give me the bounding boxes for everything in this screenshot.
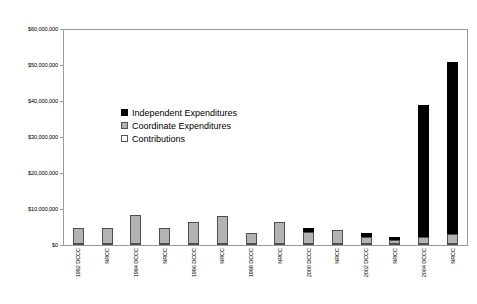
bar-slot	[237, 30, 266, 245]
x-axis-tick: NRCC	[438, 248, 467, 304]
x-axis-tick-label: 1996 DCCC	[191, 248, 197, 277]
segment-contributions	[274, 243, 285, 245]
segment-independent-expenditures	[418, 105, 429, 237]
bar-slot	[409, 30, 438, 245]
chart-legend: Independent Expenditures Coordinate Expe…	[118, 104, 240, 147]
y-axis-tick-label: $40,000,000	[0, 98, 58, 104]
x-axis-tick-label: 2004 DCCC	[421, 248, 427, 277]
y-axis-tick-label: $10,000,000	[0, 206, 58, 212]
bar-slot	[323, 30, 352, 245]
segment-contributions	[73, 243, 84, 245]
segment-contributions	[159, 243, 170, 245]
y-axis-tick-label: $0	[0, 242, 58, 248]
x-axis-tick-label: 1992 DCCC	[75, 248, 81, 277]
stacked-bar[interactable]	[217, 216, 228, 245]
bar-slot	[265, 30, 294, 245]
segment-independent-expenditures	[447, 62, 458, 234]
stacked-bar[interactable]	[274, 222, 285, 245]
segment-coordinate-expenditures	[332, 230, 343, 243]
legend-item-contributions: Contributions	[121, 132, 237, 145]
segment-coordinate-expenditures	[130, 215, 141, 243]
x-axis-tick: 1994 DCCC	[122, 248, 151, 304]
y-axis-tick-label: $60,000,000	[0, 26, 58, 32]
x-axis-tick-label: 1998 DCCC	[248, 248, 254, 277]
segment-contributions	[332, 243, 343, 245]
x-axis-tick: NRCC	[150, 248, 179, 304]
chart-container: $60,000,000 $50,000,000 $40,000,000 $30,…	[0, 0, 477, 304]
x-axis-tick: NRCC	[93, 248, 122, 304]
segment-contributions	[361, 243, 372, 245]
segment-coordinate-expenditures	[246, 233, 257, 243]
segment-contributions	[188, 243, 199, 245]
x-axis-tick: 2004 DCCC	[409, 248, 438, 304]
x-axis-tick: 1996 DCCC	[179, 248, 208, 304]
segment-coordinate-expenditures	[188, 222, 199, 243]
stacked-bar[interactable]	[73, 228, 84, 245]
bar-slot	[64, 30, 93, 245]
stacked-bar[interactable]	[246, 233, 257, 245]
bar-slot	[352, 30, 381, 245]
stacked-bar[interactable]	[389, 237, 400, 245]
x-axis-tick-label: NRCC	[277, 248, 283, 264]
segment-contributions	[246, 243, 257, 245]
stacked-bar[interactable]	[159, 228, 170, 245]
x-axis-tick-label: NRCC	[392, 248, 398, 264]
x-axis: 1992 DCCCNRCC1994 DCCCNRCC1996 DCCCNRCC1…	[64, 248, 467, 304]
segment-contributions	[303, 243, 314, 245]
gray-square-icon	[121, 122, 128, 129]
bar-slot	[381, 30, 410, 245]
segment-contributions	[389, 243, 400, 245]
segment-contributions	[102, 243, 113, 245]
x-axis-tick: NRCC	[323, 248, 352, 304]
segment-contributions	[447, 243, 458, 245]
y-axis-tick-label: $20,000,000	[0, 170, 58, 176]
x-axis-tick-label: 1994 DCCC	[133, 248, 139, 277]
x-axis-tick: 2002 DCCC	[352, 248, 381, 304]
stacked-bar[interactable]	[361, 233, 372, 245]
y-axis-tick-label: $50,000,000	[0, 62, 58, 68]
x-axis-tick: 1992 DCCC	[64, 248, 93, 304]
legend-label: Independent Expenditures	[132, 108, 237, 118]
x-axis-tick-label: NRCC	[104, 248, 110, 264]
x-axis-tick-label: 2002 DCCC	[363, 248, 369, 277]
stacked-bar[interactable]	[332, 230, 343, 245]
x-axis-tick: NRCC	[265, 248, 294, 304]
legend-label: Contributions	[132, 134, 185, 144]
bar-slot	[294, 30, 323, 245]
x-axis-tick-label: 2000 DCCC	[306, 248, 312, 277]
black-square-icon	[121, 109, 128, 116]
segment-contributions	[418, 243, 429, 245]
segment-coordinate-expenditures	[447, 234, 458, 243]
x-axis-tick: NRCC	[381, 248, 410, 304]
y-axis: $60,000,000 $50,000,000 $40,000,000 $30,…	[0, 0, 60, 304]
stacked-bar[interactable]	[188, 222, 199, 245]
y-axis-tick-label: $30,000,000	[0, 134, 58, 140]
legend-item-coordinate-expenditures: Coordinate Expenditures	[121, 119, 237, 132]
segment-coordinate-expenditures	[73, 228, 84, 243]
x-axis-tick: NRCC	[208, 248, 237, 304]
segment-coordinate-expenditures	[303, 232, 314, 243]
segment-contributions	[217, 243, 228, 245]
segment-coordinate-expenditures	[102, 228, 113, 243]
segment-coordinate-expenditures	[274, 222, 285, 243]
legend-item-independent-expenditures: Independent Expenditures	[121, 106, 237, 119]
segment-coordinate-expenditures	[159, 228, 170, 243]
x-axis-tick: 2000 DCCC	[294, 248, 323, 304]
x-axis-tick-label: NRCC	[162, 248, 168, 264]
x-axis-tick: 1998 DCCC	[237, 248, 266, 304]
stacked-bar[interactable]	[447, 62, 458, 245]
segment-coordinate-expenditures	[217, 216, 228, 243]
segment-contributions	[130, 243, 141, 245]
bar-slot	[438, 30, 467, 245]
stacked-bar[interactable]	[303, 228, 314, 245]
x-axis-tick-label: NRCC	[450, 248, 456, 264]
white-square-icon	[121, 135, 128, 142]
x-axis-tick-label: NRCC	[219, 248, 225, 264]
stacked-bar[interactable]	[418, 105, 429, 245]
stacked-bar[interactable]	[102, 228, 113, 245]
stacked-bar[interactable]	[130, 215, 141, 245]
x-axis-tick-label: NRCC	[334, 248, 340, 264]
legend-label: Coordinate Expenditures	[132, 121, 231, 131]
